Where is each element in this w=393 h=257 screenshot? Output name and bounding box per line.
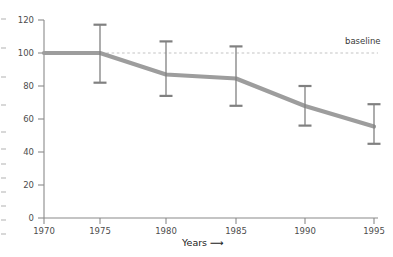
chart-canvas: 0 20 40 60 80 100 120 1970 1975 1980 198… [0,0,393,257]
chart-figure: 0 20 40 60 80 100 120 1970 1975 1980 198… [0,0,393,257]
y-tick-label: 60 [23,114,34,124]
x-tick-label: 1990 [294,226,316,236]
y-axis-tick-labels: 0 20 40 60 80 100 120 [18,15,34,223]
x-axis-ticks [44,218,374,224]
data-series-line [44,53,374,127]
x-tick-label: 1975 [89,226,111,236]
y-tick-label: 0 [29,213,34,223]
y-tick-label: 20 [23,180,34,190]
x-axis-tick-labels: 1970 1975 1980 1985 1990 1995 [33,226,385,236]
y-tick-label: 40 [23,147,34,157]
x-axis-title: Years ⟶ [181,237,224,248]
baseline-annotation-label: baseline [345,36,381,46]
y-axis-ticks [38,20,44,218]
x-tick-label: 1995 [363,226,385,236]
x-tick-label: 1980 [155,226,177,236]
y-tick-label: 120 [18,15,34,25]
x-axis-title-text: Years ⟶ [181,237,224,248]
error-bar-1985 [230,46,243,105]
error-bars [94,25,381,144]
x-tick-label: 1970 [33,226,55,236]
y-tick-label: 100 [18,48,34,58]
x-tick-label: 1985 [225,226,247,236]
y-tick-label: 80 [23,81,34,91]
error-bar-1980 [160,41,173,96]
